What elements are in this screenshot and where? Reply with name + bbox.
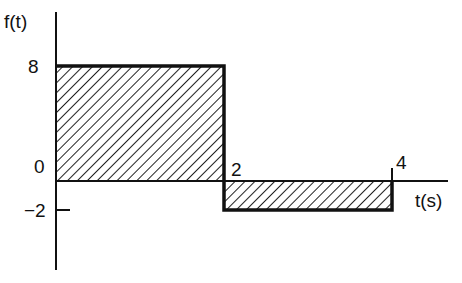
signal-plot: f(t) 8 0 −2 2 4 t(s) xyxy=(0,0,462,283)
negative-area-hatch xyxy=(224,181,392,210)
x-tick-label-4: 4 xyxy=(396,152,407,173)
x-axis-label: t(s) xyxy=(415,190,442,211)
y-tick-label-8: 8 xyxy=(28,56,39,77)
y-tick-label-0: 0 xyxy=(34,156,45,177)
x-tick-label-2: 2 xyxy=(231,159,242,180)
y-tick-label-minus2: −2 xyxy=(24,200,46,221)
positive-area-hatch xyxy=(56,66,224,181)
y-axis-label: f(t) xyxy=(4,11,27,32)
